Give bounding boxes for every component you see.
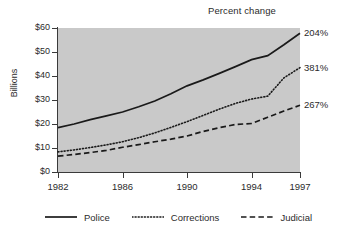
y-tick-label: $10 — [10, 142, 50, 152]
chart-title: Percent change — [208, 5, 276, 16]
x-tick-mark — [300, 173, 301, 178]
legend-swatch-dashed-icon — [241, 212, 273, 222]
legend-label: Corrections — [171, 212, 220, 223]
y-tick-label-wrap: $60 — [4, 22, 50, 23]
y-tick-label-wrap: $30 — [4, 94, 50, 95]
y-tick-label: $60 — [10, 22, 50, 32]
x-tick-mark — [187, 173, 188, 178]
chart-legend: PoliceCorrectionsJudicial — [0, 206, 357, 228]
x-tick-label: 1994 — [241, 181, 262, 192]
x-tick-label: 1990 — [176, 181, 197, 192]
legend-item-police[interactable]: Police — [45, 212, 110, 223]
y-axis-title: Billions — [9, 53, 19, 113]
y-tick-mark — [52, 100, 58, 101]
y-tick-label: $20 — [10, 118, 50, 128]
legend-label: Police — [84, 212, 110, 223]
y-tick-mark — [52, 76, 58, 77]
y-tick-label-wrap: $0 — [4, 166, 50, 167]
plot-area — [58, 28, 300, 172]
annotation-corrections: 381% — [304, 62, 328, 73]
legend-swatch-dotted-icon — [132, 212, 164, 222]
x-tick-mark — [58, 173, 59, 178]
y-tick-label-wrap: $40 — [4, 70, 50, 71]
percent-change-line-chart: Percent change Billions $0$10$20$30$40$5… — [0, 0, 357, 233]
y-tick-mark — [52, 148, 58, 149]
x-tick-label: 1982 — [47, 181, 68, 192]
legend-item-judicial[interactable]: Judicial — [241, 212, 312, 223]
legend-swatch-solid-icon — [45, 212, 77, 222]
x-tick-mark — [252, 173, 253, 178]
y-tick-mark — [52, 28, 58, 29]
y-tick-label-wrap: $50 — [4, 46, 50, 47]
y-tick-mark — [52, 124, 58, 125]
legend-label: Judicial — [280, 212, 312, 223]
y-tick-label-wrap: $10 — [4, 142, 50, 143]
x-axis-line — [57, 172, 301, 173]
annotation-judicial: 267% — [304, 99, 328, 110]
x-tick-mark — [123, 173, 124, 178]
x-tick-label: 1986 — [112, 181, 133, 192]
y-tick-label: $40 — [10, 70, 50, 80]
annotation-police: 204% — [304, 27, 328, 38]
y-tick-label: $50 — [10, 46, 50, 56]
y-tick-label-wrap: $20 — [4, 118, 50, 119]
y-tick-label: $0 — [10, 166, 50, 176]
y-tick-mark — [52, 52, 58, 53]
legend-item-corrections[interactable]: Corrections — [132, 212, 220, 223]
y-tick-label: $30 — [10, 94, 50, 104]
x-tick-label: 1997 — [289, 181, 310, 192]
